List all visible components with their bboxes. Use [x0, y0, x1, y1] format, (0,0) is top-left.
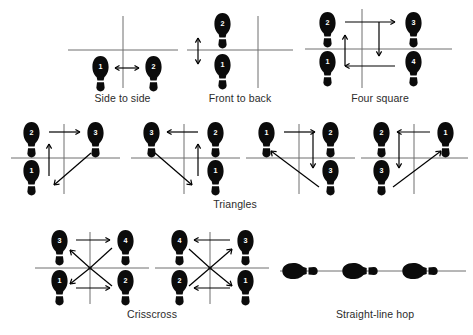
- footprint-label: 2: [329, 128, 333, 137]
- footprint-2: 2: [145, 56, 161, 91]
- footprint-1: 1: [237, 270, 253, 305]
- footprint-2: 2: [23, 122, 39, 157]
- footprint-2: 2: [117, 270, 133, 305]
- arrow-diagonal-3-to-1: [393, 151, 441, 187]
- center-dot: [208, 266, 211, 269]
- arrow-left-top: [194, 237, 230, 242]
- arrow-diagonal-down-left: [189, 268, 210, 286]
- footprint-1: 1: [23, 160, 39, 195]
- footprint-2: 2: [322, 122, 338, 157]
- arrow-down-2-to-3: [396, 132, 401, 168]
- footprint-label: 3: [412, 18, 416, 27]
- footprint-label: 1: [30, 166, 34, 175]
- arrow-diagonal-down-right: [90, 268, 112, 286]
- footprint-3: 3: [87, 122, 103, 157]
- footprint-label: 4: [124, 236, 128, 245]
- arrow-diagonal-up-right: [210, 249, 232, 268]
- center-dot: [88, 266, 91, 269]
- footprint-label: 3: [94, 128, 98, 137]
- footprint-label: 2: [178, 276, 182, 285]
- footprint-2: 2: [171, 270, 187, 305]
- footprint-3: 3: [143, 122, 159, 157]
- footprint-label: 2: [152, 62, 156, 71]
- caption-triangles: Triangles: [180, 198, 290, 210]
- arrow-down-2-to-3: [310, 132, 315, 168]
- figure-crisscross-1: 3 4 1 2: [32, 226, 152, 306]
- caption-side-to-side: Side to side: [60, 92, 185, 104]
- footprint-4: 4: [171, 230, 187, 265]
- footprint-2: 2: [214, 13, 230, 48]
- footprint-2: 2: [373, 122, 389, 157]
- caption-crisscross: Crisscross: [92, 308, 212, 320]
- arrow-diagonal-down-right: [210, 268, 232, 286]
- footprint-label: 1: [326, 57, 330, 66]
- footprint-label: 3: [380, 166, 384, 175]
- footprint-label: 2: [221, 19, 225, 28]
- arrow-up-1-to-2: [195, 144, 200, 176]
- arrow-left-2-to-3: [167, 129, 198, 134]
- footprint-label: 3: [244, 236, 248, 245]
- arrow-down-3-to-4: [376, 22, 381, 56]
- footprint-3: 3: [237, 230, 253, 265]
- arrow-up-1-to-2: [342, 35, 347, 66]
- footprint-label: 1: [214, 166, 218, 175]
- caption-four-square: Four square: [300, 92, 460, 104]
- figure-triangle-2: 3 2 1: [128, 118, 243, 196]
- figure-side-to-side: 1 2: [60, 8, 185, 90]
- arrow-up-1-to-2: [46, 144, 51, 176]
- footprint-label: 2: [380, 128, 384, 137]
- arrow-left-bottom: [194, 285, 230, 290]
- footprint-3: 3: [405, 12, 421, 47]
- footprint-label: 4: [178, 236, 182, 245]
- footprint-1: 1: [51, 270, 67, 305]
- figure-triangle-3: 1 2 3: [243, 118, 358, 196]
- figure-four-square: 2 3 1 4: [300, 4, 460, 90]
- footprint-1: 1: [92, 56, 108, 91]
- footprint-1: 1: [319, 51, 335, 86]
- footprint-sideways-2: [342, 263, 377, 279]
- footprint-label: 1: [244, 276, 248, 285]
- figure-crisscross-2: 4 3 2 1: [152, 226, 272, 306]
- footprint-label: 2: [326, 18, 330, 27]
- arrow-diagonal-up-left: [70, 250, 90, 268]
- footprint-3: 3: [322, 160, 338, 195]
- arrow-right-bottom: [76, 285, 110, 290]
- arrow-diagonal-up-left: [189, 249, 210, 268]
- arrow-right-top: [76, 237, 110, 242]
- footprint-4: 4: [117, 230, 133, 265]
- caption-straight-line-hop: Straight-line hop: [300, 308, 450, 320]
- footprint-sideways-1: [282, 263, 317, 279]
- arrow-right-2-to-3: [345, 19, 395, 24]
- footprint-label: 3: [329, 166, 333, 175]
- footprint-label: 1: [99, 62, 103, 71]
- arrow-double-vertical: [195, 38, 200, 64]
- footprint-label: 3: [150, 128, 154, 137]
- footprint-label: 2: [30, 128, 34, 137]
- footprint-1: 1: [207, 160, 223, 195]
- arrow-diagonal-up-right: [90, 248, 112, 268]
- figure-triangle-1: 2 3 1: [8, 118, 123, 196]
- footprint-label: 2: [214, 128, 218, 137]
- caption-front-to-back: Front to back: [180, 92, 300, 104]
- footprint-1: 1: [214, 54, 230, 89]
- footprint-label: 1: [221, 60, 225, 69]
- figure-triangle-4: 2 1 3: [358, 118, 470, 196]
- footprint-3: 3: [51, 230, 67, 265]
- footprint-label: 1: [444, 128, 448, 137]
- footprint-label: 1: [265, 128, 269, 137]
- arrow-left-4-to-1: [345, 63, 395, 68]
- footprint-label: 1: [58, 276, 62, 285]
- footprint-label: 2: [124, 276, 128, 285]
- diagram-sheet: 1 2 Side to side 2: [0, 0, 473, 335]
- arrow-diagonal-down-left: [70, 268, 90, 284]
- figure-front-to-back: 2 1: [185, 8, 295, 90]
- footprint-3: 3: [373, 160, 389, 195]
- arrow-double-horizontal: [115, 65, 139, 70]
- footprint-sideways-3: [402, 263, 437, 279]
- footprint-label: 4: [412, 57, 416, 66]
- footprint-2: 2: [207, 122, 223, 157]
- footprint-label: 3: [58, 236, 62, 245]
- arrow-diagonal-3-to-1: [271, 151, 319, 187]
- figure-straight-line-hop: [278, 248, 468, 294]
- footprint-2: 2: [319, 12, 335, 47]
